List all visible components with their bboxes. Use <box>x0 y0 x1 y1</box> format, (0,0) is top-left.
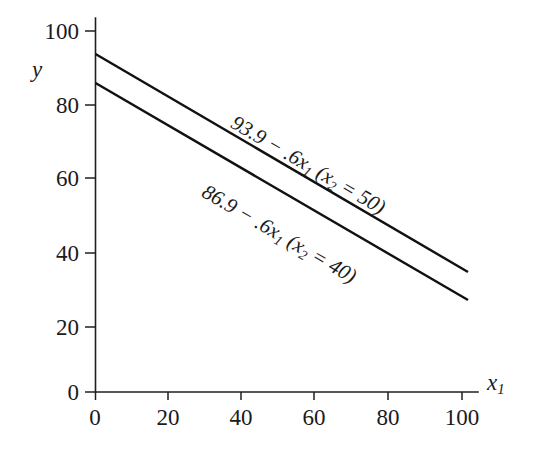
x-tick-label-100: 100 <box>432 406 492 429</box>
x-axis-ticks <box>96 392 463 400</box>
x-tick-label-20: 20 <box>138 406 198 429</box>
x-axis-title-subscript: 1 <box>497 381 505 397</box>
series-line-lower <box>96 83 469 300</box>
y-tick-label-0: 0 <box>27 381 79 404</box>
y-axis-title: y <box>32 58 42 81</box>
x-tick-label-80: 80 <box>358 406 418 429</box>
x-tick-label-40: 40 <box>211 406 271 429</box>
x-tick-label-0: 0 <box>65 406 125 429</box>
x-axis-title: x1 <box>487 371 505 394</box>
x-tick-label-60: 60 <box>284 406 344 429</box>
y-tick-label-60: 60 <box>27 167 79 190</box>
y-tick-label-20: 20 <box>27 316 79 339</box>
y-axis-ticks <box>85 31 96 392</box>
x-axis-title-base: x <box>487 370 497 395</box>
y-tick-label-40: 40 <box>27 242 79 265</box>
y-tick-label-100: 100 <box>27 20 79 43</box>
chart-figure: 100 80 60 40 20 0 0 20 40 60 80 100 y x1… <box>0 0 545 452</box>
y-tick-label-80: 80 <box>27 94 79 117</box>
